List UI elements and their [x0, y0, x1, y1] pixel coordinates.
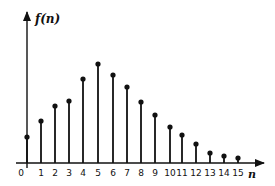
stem-n12 [193, 141, 198, 163]
x-tick-label: 2 [52, 168, 58, 178]
stem-marker [95, 61, 100, 66]
stem-n13 [207, 150, 212, 163]
x-tick-label: 7 [124, 168, 130, 178]
x-tick-label: 3 [66, 168, 72, 178]
x-tick-label: 6 [110, 168, 116, 178]
stem-n3 [66, 98, 71, 163]
stem-marker [193, 141, 198, 146]
stem-marker [66, 98, 71, 103]
x-tick-label: 4 [80, 168, 86, 178]
stem-marker [124, 84, 129, 89]
stem-n15 [235, 155, 240, 163]
stem-marker [24, 134, 29, 139]
stem-marker [179, 132, 184, 137]
stem-marker [235, 155, 240, 160]
stem-n0 [24, 134, 29, 163]
x-tick-label: 10 [164, 168, 176, 178]
stems-group [24, 61, 240, 163]
stem-marker [80, 76, 85, 81]
stem-n9 [152, 112, 157, 163]
x-tick-label: 13 [204, 168, 215, 178]
x-tick-label: 15 [232, 168, 243, 178]
x-tick-label: 0 [18, 168, 24, 178]
stem-n14 [221, 153, 226, 163]
stem-marker [52, 103, 57, 108]
stem-n1 [38, 118, 43, 163]
stem-marker [152, 112, 157, 117]
x-tick-labels: 0123456789101112131415 [18, 168, 244, 178]
x-tick-label: 5 [95, 168, 101, 178]
stem-n7 [124, 84, 129, 163]
stem-n11 [179, 132, 184, 163]
stem-plot: f(n) n 0123456789101112131415 [0, 0, 275, 186]
stem-n8 [138, 99, 143, 163]
stem-n6 [110, 72, 115, 163]
stem-marker [110, 72, 115, 77]
x-tick-label: 8 [138, 168, 144, 178]
stem-marker [38, 118, 43, 123]
x-tick-label: 11 [176, 168, 187, 178]
stem-n4 [80, 76, 85, 163]
x-axis-label: n [248, 168, 256, 181]
stem-n5 [95, 61, 100, 163]
stem-marker [207, 150, 212, 155]
stem-marker [221, 153, 226, 158]
x-tick-label: 14 [218, 168, 230, 178]
x-tick-label: 12 [190, 168, 201, 178]
y-axis-label: f(n) [34, 12, 60, 26]
stem-marker [138, 99, 143, 104]
stem-n10 [167, 124, 172, 163]
x-tick-label: 9 [152, 168, 158, 178]
x-tick-label: 1 [38, 168, 44, 178]
stem-n2 [52, 103, 57, 163]
stem-marker [167, 124, 172, 129]
